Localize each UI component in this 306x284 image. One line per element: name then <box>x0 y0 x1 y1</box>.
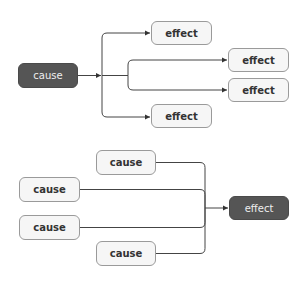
cause-node: cause <box>19 215 80 240</box>
cause-node: cause <box>18 63 78 88</box>
connector-to-effect-1 <box>102 33 150 76</box>
cause-node: cause <box>96 150 156 175</box>
cause-node: cause <box>96 241 156 266</box>
effect-node: effect <box>228 48 289 72</box>
connector-from-cause-1 <box>156 163 205 209</box>
connector-to-effect-3 <box>128 76 227 91</box>
connector-to-effect-2 <box>128 60 227 76</box>
effect-node: effect <box>151 21 212 45</box>
connector-from-cause-4 <box>156 208 205 254</box>
effect-node: effect <box>228 78 289 102</box>
effect-node: effect <box>151 104 212 128</box>
effect-node: effect <box>229 196 289 220</box>
connector-from-cause-3 <box>80 208 205 228</box>
cause-node: cause <box>19 177 80 202</box>
connector-from-cause-2 <box>80 190 205 209</box>
connector-to-effect-4 <box>102 76 150 118</box>
